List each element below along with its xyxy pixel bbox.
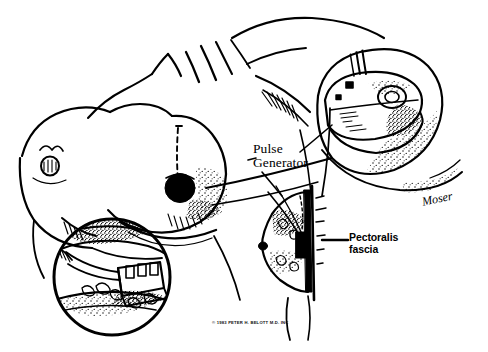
label-pectoralis-fascia: Pectoralis fascia [349, 232, 398, 256]
label-pulse-generator: Pulse Generator [253, 142, 308, 170]
pulse-generator-pocket-detail [317, 18, 462, 193]
surgical-pocket-detail [52, 218, 186, 335]
illustration-artwork [0, 0, 488, 352]
copyright-notice: © 1983 PETER H. BELOTT M.D. INC [212, 321, 289, 325]
lateral-cross-section [259, 186, 327, 340]
medical-illustration-figure: Pulse Generator Pectoralis fascia Moser … [0, 0, 488, 352]
